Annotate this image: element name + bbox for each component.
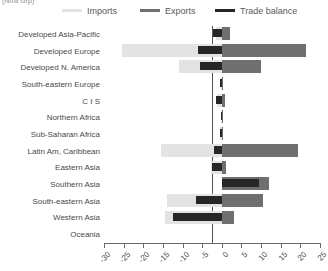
x-axis-tick-label: 25: [308, 250, 328, 271]
x-axis-tick: [320, 243, 321, 248]
legend-swatch-exports: [140, 9, 160, 12]
bar-balance: [196, 196, 222, 204]
chart-row: [104, 76, 320, 92]
category-label: Developed Asia-Pacific: [0, 30, 100, 39]
bar-balance: [221, 112, 223, 120]
chart-row: [104, 26, 320, 42]
bar-exports: [222, 194, 263, 207]
bar-balance: [173, 213, 222, 221]
x-axis-tick: [261, 243, 262, 248]
x-axis-tick-label: 5: [229, 250, 250, 271]
x-axis-tick: [202, 243, 203, 248]
x-axis-tick: [124, 243, 125, 248]
legend-item-trade-balance: Trade balance: [215, 4, 297, 17]
bar-balance: [220, 79, 222, 87]
category-axis-labels: Developed Asia-PacificDeveloped EuropeDe…: [0, 26, 100, 243]
x-axis-tick: [241, 243, 242, 248]
x-axis-tick-label: -5: [190, 250, 211, 271]
x-axis-tick: [281, 243, 282, 248]
x-axis-tick: [143, 243, 144, 248]
chart-legend: Imports Exports Trade balance: [0, 4, 324, 17]
bar-exports: [222, 44, 306, 57]
category-label: Oceania: [0, 230, 100, 239]
bar-exports: [222, 27, 230, 40]
legend-label-exports: Exports: [165, 6, 196, 16]
legend-label-trade-balance: Trade balance: [240, 6, 297, 16]
x-axis-tick-label: -10: [170, 250, 191, 271]
x-axis-tick: [183, 243, 184, 248]
x-axis-tick-label: 20: [288, 250, 309, 271]
bar-exports: [222, 144, 299, 157]
x-axis-tick: [163, 243, 164, 248]
bar-exports: [222, 77, 224, 90]
legend-swatch-trade-balance: [215, 9, 235, 12]
chart-row: [104, 109, 320, 125]
chart-row: [104, 193, 320, 209]
chart-row: [104, 143, 320, 159]
chart-row: [104, 226, 320, 242]
bar-exports: [222, 94, 225, 107]
x-axis-tick-label: -15: [151, 250, 172, 271]
bar-exports: [222, 211, 234, 224]
x-axis-tick: [300, 243, 301, 248]
legend-swatch-imports: [62, 9, 82, 12]
category-label: C I S: [0, 97, 100, 106]
bar-balance: [200, 62, 222, 70]
x-axis-tick-label: 10: [249, 250, 270, 271]
category-label: Western Asia: [0, 213, 100, 222]
bar-imports: [161, 144, 222, 157]
bar-balance: [222, 179, 259, 187]
bar-exports: [222, 127, 224, 140]
x-axis-tick-label: 0: [210, 250, 231, 271]
chart-row: [104, 59, 320, 75]
category-label: Southern Asia: [0, 180, 100, 189]
bar-balance: [214, 146, 222, 154]
category-label: Developed N. America: [0, 63, 100, 72]
legend-label-imports: Imports: [87, 6, 117, 16]
legend-item-imports: Imports: [62, 4, 117, 17]
bar-exports: [222, 161, 226, 174]
chart-row: [104, 210, 320, 226]
category-label: South-eastern Europe: [0, 80, 100, 89]
bar-balance: [198, 46, 222, 54]
x-axis-tick-label: -20: [131, 250, 152, 271]
category-label: Eastern Asia: [0, 163, 100, 172]
category-label: Latin Am, Caribbean: [0, 147, 100, 156]
bar-balance: [213, 29, 222, 37]
chart-row: [104, 160, 320, 176]
bar-exports: [222, 60, 261, 73]
category-label: Northern Africa: [0, 113, 100, 122]
chart-row: [104, 43, 320, 59]
bar-balance: [220, 129, 222, 137]
category-label: South-eastern Asia: [0, 197, 100, 206]
category-label: Sub-Saharan Africa: [0, 130, 100, 139]
chart-row: [104, 93, 320, 109]
category-label: Developed Europe: [0, 47, 100, 56]
chart-row: [104, 176, 320, 192]
chart-row: [104, 126, 320, 142]
legend-item-exports: Exports: [140, 4, 196, 17]
bar-balance: [212, 163, 221, 171]
x-axis-tick-label: -25: [111, 250, 132, 271]
x-axis-tick-label: 15: [269, 250, 290, 271]
plot-area: [104, 26, 320, 243]
bar-balance: [216, 96, 222, 104]
x-axis-tick-label: -30: [92, 250, 113, 271]
x-axis-line: [104, 243, 320, 244]
x-axis-tick: [222, 243, 223, 248]
x-axis-tick: [104, 243, 105, 248]
